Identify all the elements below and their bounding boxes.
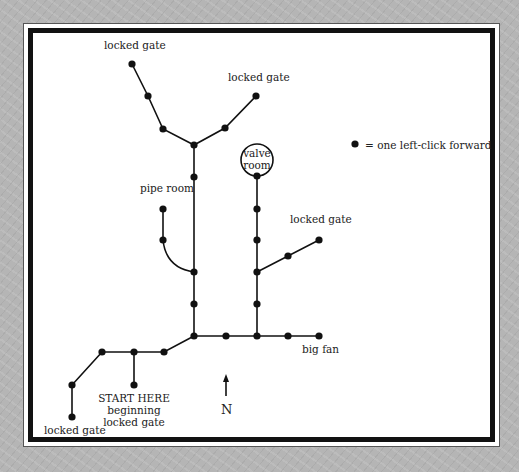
label-start-beginning: beginning xyxy=(94,404,174,416)
label-valve-room-2: room xyxy=(241,159,273,171)
pipe-lines xyxy=(72,64,319,417)
click-nodes xyxy=(68,60,322,420)
label-valve-room-1: valve xyxy=(241,147,273,159)
label-start-here: START HERE xyxy=(94,392,174,404)
north-arrow-icon xyxy=(223,374,229,382)
legend-text: = one left-click forward xyxy=(365,139,491,151)
label-locked-gate-top-right: locked gate xyxy=(228,71,290,83)
label-locked-gate-bottom-left: locked gate xyxy=(44,424,106,436)
label-locked-gate-mid-right: locked gate xyxy=(290,213,352,225)
label-north: N xyxy=(221,404,232,416)
label-big-fan: big fan xyxy=(302,343,339,355)
label-pipe-room: pipe room xyxy=(140,182,194,194)
label-start-locked-gate: locked gate xyxy=(94,416,174,428)
label-locked-gate-top-left: locked gate xyxy=(104,39,166,51)
legend-dot-icon xyxy=(351,140,358,147)
